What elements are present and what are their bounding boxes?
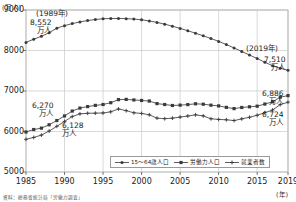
annotation-line: 万人 — [262, 98, 283, 106]
y-tick-label: 8000 — [0, 46, 24, 55]
source-note: 資料：総務省統計局「労働力調査」 — [3, 194, 83, 200]
annotation-line: 万人 — [264, 64, 285, 72]
annotation-end-2019-pop: 7,510万人 — [264, 56, 285, 73]
legend-marker-dot-icon — [115, 159, 129, 166]
legend-item-0[interactable]: 15〜64歳人口 — [115, 158, 169, 166]
x-tick-label: 2010 — [204, 177, 234, 186]
annotation-line: (2019年) — [246, 45, 278, 53]
x-tick-label: 1995 — [88, 177, 118, 186]
legend-label: 就業者数 — [241, 158, 265, 166]
annotation-line: 万人 — [62, 130, 83, 138]
annotation-end-2019-labor: 6,886万人 — [262, 90, 283, 107]
annotation-line: 万人 — [30, 27, 51, 35]
annotation-line: 万人 — [262, 119, 283, 127]
x-tick-label: 2015 — [242, 177, 272, 186]
annotation-start-1989-employed: 6,128万人 — [62, 122, 83, 139]
annotation-end-2019-employed: 6,724万人 — [262, 111, 283, 128]
legend-label: 労働力人口 — [190, 158, 220, 166]
annotation-peak-1989-value: 8,552万人 — [30, 19, 51, 36]
legend-marker-cross-icon — [225, 159, 239, 166]
legend-label: 15〜64歳人口 — [131, 158, 169, 166]
legend-item-2[interactable]: 就業者数 — [225, 158, 265, 166]
x-tick-label: 2005 — [165, 177, 195, 186]
annotation-start-1989-labor: 6,270万人 — [32, 102, 53, 119]
legend-item-1[interactable]: 労働力人口 — [174, 158, 220, 166]
x-tick-label: 2000 — [127, 177, 157, 186]
y-tick-label: 6000 — [0, 127, 24, 136]
annotation-end-2019-pop-year: (2019年) — [246, 45, 278, 53]
y-tick-label: 5000 — [0, 167, 24, 176]
y-tick-label: 7000 — [0, 86, 24, 95]
legend-marker-square-icon — [174, 159, 188, 166]
chart-legend: 15〜64歳人口労働力人口就業者数 — [110, 156, 270, 168]
annotation-line: 万人 — [32, 110, 53, 118]
y-tick-label: 9000 — [0, 5, 24, 14]
x-tick-label: 1985 — [11, 177, 41, 186]
x-axis-unit-label: (年) — [276, 189, 288, 199]
x-tick-label: 2019 — [273, 177, 296, 186]
x-tick-label: 1990 — [50, 177, 80, 186]
chart-figure: (万人) 50006000700080009000 19851990199520… — [0, 0, 296, 202]
